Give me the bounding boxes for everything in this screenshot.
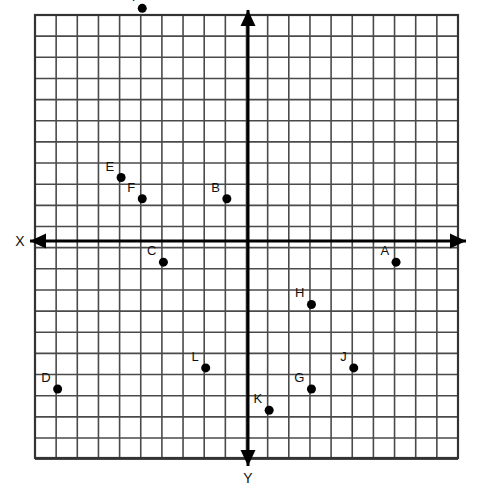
data-point-d: [53, 385, 62, 394]
y-axis-label: Y: [243, 470, 253, 486]
y-axis-arrow-up-icon: [241, 10, 256, 26]
data-point-a: [392, 258, 401, 267]
axis-labels: XY: [15, 233, 253, 486]
data-point-c: [159, 258, 168, 267]
data-point-label-k: K: [253, 391, 262, 406]
data-point-label-h: H: [295, 285, 304, 300]
data-point-b: [222, 194, 231, 203]
data-point-i: [138, 4, 147, 13]
data-point-label-g: G: [294, 370, 304, 385]
data-point-h: [307, 300, 316, 309]
data-point-j: [349, 363, 358, 372]
data-point-f: [138, 194, 147, 203]
data-points: ABCDEFGHIJKL: [41, 0, 400, 415]
data-point-label-j: J: [340, 349, 347, 364]
data-point-label-d: D: [41, 370, 50, 385]
data-point-label-e: E: [105, 159, 114, 174]
coordinate-plane-svg: ABCDEFGHIJKL XY: [0, 0, 482, 490]
x-axis-arrow-left-icon: [30, 234, 46, 249]
data-point-g: [307, 385, 316, 394]
data-point-label-f: F: [127, 180, 135, 195]
data-point-label-c: C: [147, 243, 156, 258]
data-point-label-i: I: [132, 0, 136, 4]
coordinate-plane-figure: ABCDEFGHIJKL XY: [0, 0, 482, 490]
data-point-label-l: L: [191, 349, 198, 364]
data-point-k: [265, 406, 274, 415]
data-point-label-b: B: [211, 180, 220, 195]
data-point-e: [117, 173, 126, 182]
data-point-label-a: A: [380, 243, 389, 258]
x-axis-label: X: [15, 233, 25, 249]
data-point-l: [201, 363, 210, 372]
